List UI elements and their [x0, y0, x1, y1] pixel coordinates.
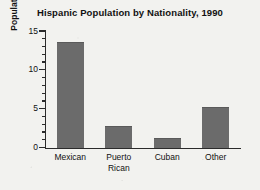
y-axis-major-tick: [39, 30, 46, 31]
y-axis-major-tick: [39, 147, 46, 148]
bar: [202, 107, 229, 148]
y-axis-major-tick: [39, 69, 46, 70]
bar-chart: Hispanic Population by Nationality, 1990…: [0, 0, 260, 190]
y-axis-tick-label: 10: [12, 64, 38, 74]
x-axis-tick-label: Other: [188, 152, 244, 163]
y-axis-tick-label: 15: [12, 26, 38, 36]
bar: [57, 42, 84, 148]
y-axis-tick-label: 5: [12, 103, 38, 113]
y-axis-major-tick: [39, 108, 46, 109]
chart-title: Hispanic Population by Nationality, 1990: [0, 7, 260, 18]
y-axis-title: Population in millions: [7, 0, 21, 45]
x-axis-tick-label-line: Rican: [91, 163, 147, 174]
y-axis-tick-label: 0: [12, 142, 38, 152]
x-axis-tick-label-line: Other: [188, 152, 244, 163]
bar: [105, 126, 132, 148]
bar: [154, 138, 181, 148]
plot-area: [46, 31, 240, 148]
